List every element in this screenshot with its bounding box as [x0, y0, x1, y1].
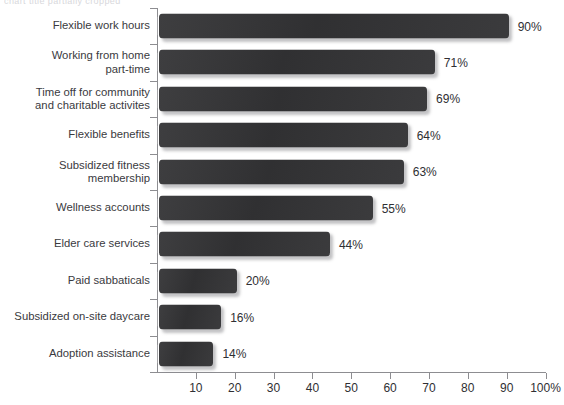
bar-wrapper: 44% — [159, 232, 330, 257]
value-tick-label: 10 — [189, 381, 202, 395]
bar-row: Subsidized on-site daycare16% — [0, 299, 564, 335]
category-label: Working from home part-time — [0, 49, 150, 76]
bar-row: Elder care services44% — [0, 226, 564, 262]
bar — [159, 341, 213, 366]
value-tick — [196, 373, 197, 379]
bar — [159, 14, 509, 39]
value-tick-label: 90 — [500, 381, 513, 395]
value-tick — [507, 373, 508, 379]
value-tick-label: 60 — [383, 381, 396, 395]
bar — [159, 232, 330, 257]
value-tick — [235, 373, 236, 379]
bar-wrapper: 69% — [159, 86, 427, 111]
bar-wrapper: 63% — [159, 159, 404, 184]
category-label: Elder care services — [0, 238, 150, 252]
bar-wrapper: 16% — [159, 305, 221, 330]
bar — [159, 50, 435, 75]
bar-row: Working from home part-time71% — [0, 44, 564, 80]
bar-value-label: 16% — [230, 310, 254, 324]
bar-value-label: 20% — [246, 274, 270, 288]
bar-row: Flexible benefits64% — [0, 117, 564, 153]
bar-row: Paid sabbaticals20% — [0, 263, 564, 299]
bar — [159, 305, 221, 330]
bar-wrapper: 55% — [159, 196, 373, 221]
bar — [159, 123, 408, 148]
bar-wrapper: 14% — [159, 341, 213, 366]
bar-row: Subsidized fitness membership63% — [0, 154, 564, 190]
bar-value-label: 44% — [339, 237, 363, 251]
bar — [159, 196, 373, 221]
value-tick-label: 80 — [461, 381, 474, 395]
category-tick — [150, 372, 157, 373]
chart-container: chart title partially cropped Flexible w… — [0, 0, 564, 405]
bar-row: Flexible work hours90% — [0, 8, 564, 44]
bar-wrapper: 71% — [159, 50, 435, 75]
value-tick — [390, 373, 391, 379]
bar — [159, 159, 404, 184]
bar-wrapper: 20% — [159, 268, 237, 293]
bar-row: Wellness accounts55% — [0, 190, 564, 226]
bar-row: Time off for community and charitable ac… — [0, 81, 564, 117]
category-label: Flexible benefits — [0, 128, 150, 142]
value-tick — [429, 373, 430, 379]
value-tick-label: 50 — [345, 381, 358, 395]
category-label: Flexible work hours — [0, 19, 150, 33]
bar-value-label: 55% — [382, 201, 406, 215]
category-label: Paid sabbaticals — [0, 274, 150, 288]
value-tick — [274, 373, 275, 379]
value-tick-label: 70 — [422, 381, 435, 395]
bar-value-label: 63% — [413, 165, 437, 179]
bar-row: Adoption assistance14% — [0, 336, 564, 372]
value-tick-label: 100% — [530, 381, 561, 395]
bar-value-label: 69% — [436, 92, 460, 106]
value-tick-label: 30 — [267, 381, 280, 395]
bar — [159, 268, 237, 293]
category-label: Subsidized fitness membership — [0, 158, 150, 185]
value-tick — [468, 373, 469, 379]
value-tick — [351, 373, 352, 379]
category-label: Subsidized on-site daycare — [0, 310, 150, 324]
value-tick — [312, 373, 313, 379]
bar — [159, 86, 427, 111]
bar-chart-plot-area: Flexible work hours90%Working from home … — [0, 0, 564, 405]
value-tick-label: 40 — [306, 381, 319, 395]
value-tick — [546, 373, 547, 379]
bar-wrapper: 90% — [159, 14, 509, 39]
bar-value-label: 90% — [518, 19, 542, 33]
bar-value-label: 71% — [444, 55, 468, 69]
bar-wrapper: 64% — [159, 123, 408, 148]
bar-value-label: 64% — [417, 128, 441, 142]
category-label: Wellness accounts — [0, 201, 150, 215]
category-label: Time off for community and charitable ac… — [0, 85, 150, 112]
category-label: Adoption assistance — [0, 347, 150, 361]
value-tick-label: 20 — [228, 381, 241, 395]
bar-value-label: 14% — [222, 347, 246, 361]
